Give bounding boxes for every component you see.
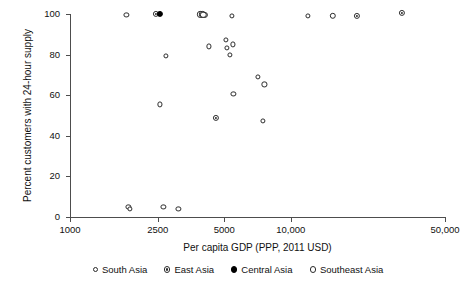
y-tick-label: 100 — [44, 7, 60, 21]
data-point — [163, 53, 168, 58]
y-tick-label: 20 — [49, 169, 60, 183]
x-tick — [445, 217, 446, 222]
x-tick-label: 5000 — [214, 223, 235, 236]
data-point — [261, 118, 266, 123]
data-point — [161, 205, 166, 210]
legend-item-label: East Asia — [174, 264, 214, 275]
plot-area: 020406080100 10002500500010,00050,000 Pe… — [70, 14, 445, 217]
data-point — [255, 74, 260, 79]
data-point — [127, 207, 132, 212]
y-tick: 40 — [66, 136, 70, 137]
x-tick-label: 10,000 — [276, 223, 305, 236]
legend-item[interactable]: South Asia — [93, 264, 148, 275]
x-tick-label: 2500 — [147, 223, 168, 236]
data-point — [213, 114, 219, 120]
data-point — [229, 13, 234, 18]
legend-item[interactable]: Southeast Asia — [310, 264, 384, 275]
x-tick — [70, 217, 71, 222]
y-tick-label: 80 — [49, 48, 60, 62]
y-tick: 80 — [66, 55, 70, 56]
data-point — [330, 13, 336, 19]
legend-item-label: Central Asia — [241, 264, 292, 275]
x-tick — [158, 217, 159, 222]
data-point — [224, 37, 229, 42]
chart-legend: South AsiaEast AsiaCentral AsiaSoutheast… — [0, 264, 476, 275]
legend-marker-icon — [93, 267, 98, 272]
data-point — [354, 13, 360, 19]
y-tick: 20 — [66, 176, 70, 177]
data-point — [230, 42, 235, 47]
data-point — [157, 11, 163, 17]
legend-item-label: South Asia — [102, 264, 147, 275]
legend-marker-icon — [164, 266, 170, 272]
x-axis-line — [70, 217, 445, 218]
legend-item[interactable]: Central Asia — [231, 264, 292, 275]
data-point — [176, 206, 181, 211]
x-tick — [224, 217, 225, 222]
y-tick-label: 60 — [49, 88, 60, 102]
data-point — [262, 82, 267, 87]
legend-marker-icon — [310, 266, 316, 272]
data-point — [231, 92, 236, 97]
data-point — [124, 12, 129, 17]
data-point — [206, 44, 211, 49]
data-point — [306, 13, 311, 18]
legend-item-label: Southeast Asia — [320, 264, 383, 275]
scatter-plot-figure: 020406080100 10002500500010,00050,000 Pe… — [0, 0, 476, 293]
y-tick: 100 — [66, 14, 70, 15]
x-tick-label: 50,000 — [430, 223, 459, 236]
y-tick-label: 40 — [49, 129, 60, 143]
y-axis-line — [70, 14, 71, 217]
data-point — [227, 52, 232, 57]
data-point — [399, 10, 405, 16]
x-tick — [291, 217, 292, 222]
data-point — [225, 46, 230, 51]
y-tick: 60 — [66, 95, 70, 96]
x-tick-label: 1000 — [59, 223, 80, 236]
data-point — [158, 102, 163, 107]
legend-item[interactable]: East Asia — [164, 264, 214, 275]
x-axis-title: Per capita GDP (PPP, 2011 USD) — [70, 242, 445, 253]
y-tick-label: 0 — [55, 210, 60, 224]
legend-marker-icon — [231, 266, 237, 272]
y-axis-title: Percent customers with 24-hour supply — [22, 14, 33, 217]
